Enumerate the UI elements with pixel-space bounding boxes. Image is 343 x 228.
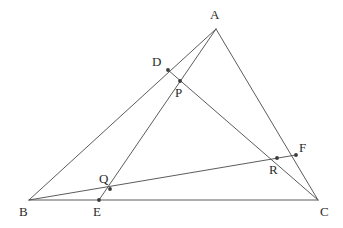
point-label-R: R	[269, 163, 278, 176]
point-dot-D	[166, 68, 170, 72]
point-label-D: D	[152, 55, 161, 68]
point-dot-F	[294, 153, 298, 157]
geometry-figure: ABCDEFPQR	[0, 0, 343, 228]
point-dot-P	[178, 79, 182, 83]
point-dot-Q	[108, 187, 112, 191]
segment-CD	[168, 70, 318, 200]
point-label-B: B	[19, 205, 28, 218]
point-label-P: P	[175, 86, 182, 99]
point-label-A: A	[210, 8, 219, 21]
point-dots-layer	[97, 68, 298, 202]
point-label-C: C	[320, 205, 329, 218]
segment-BF	[29, 155, 296, 200]
point-dot-E	[97, 198, 101, 202]
point-label-F: F	[299, 141, 306, 154]
segment-AB	[29, 29, 216, 200]
point-label-Q: Q	[99, 172, 108, 185]
point-label-E: E	[93, 205, 101, 218]
geometry-canvas	[0, 0, 343, 228]
segment-CA	[216, 29, 318, 200]
point-dot-R	[275, 156, 279, 160]
